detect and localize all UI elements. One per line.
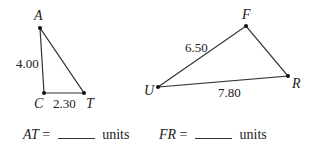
answer-blank-at[interactable] — [58, 126, 95, 139]
vertex-r-dot — [286, 74, 290, 78]
question-fr-unit: units — [240, 127, 267, 142]
vertex-f-dot — [244, 24, 248, 28]
vertex-c-dot — [42, 91, 46, 95]
question-fr-variable: FR — [159, 127, 176, 142]
question-at-variable: AT — [23, 127, 39, 142]
side-label-ac: 4.00 — [16, 57, 39, 71]
triangle-act — [40, 28, 84, 93]
vertex-label-r: R — [292, 77, 301, 91]
side-label-ur: 7.80 — [218, 86, 241, 100]
vertex-u-dot — [156, 85, 160, 89]
question-at-unit: units — [102, 127, 129, 142]
vertex-label-a: A — [34, 9, 43, 23]
question-at-equals: = — [42, 127, 50, 142]
answer-blank-fr[interactable] — [195, 126, 232, 139]
side-label-uf: 6.50 — [185, 41, 208, 55]
question-fr-equals: = — [180, 127, 188, 142]
vertex-t-dot — [82, 91, 86, 95]
side-label-ct: 2.30 — [53, 97, 76, 111]
vertex-label-u: U — [144, 84, 154, 98]
question-at: AT = units — [23, 126, 129, 143]
vertex-a-dot — [38, 26, 42, 30]
vertex-label-t: T — [86, 97, 94, 111]
vertex-label-f: F — [242, 8, 251, 22]
question-fr: FR = units — [159, 126, 267, 143]
triangle-ufr — [158, 26, 288, 87]
vertex-label-c: C — [34, 97, 43, 111]
